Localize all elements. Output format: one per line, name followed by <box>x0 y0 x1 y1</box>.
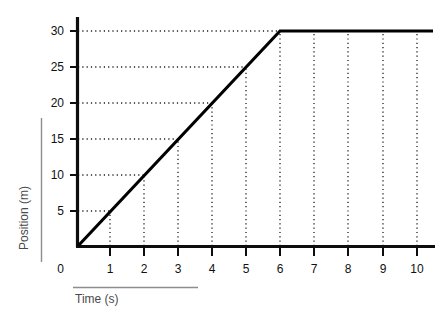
y-tick-label-10: 10 <box>51 168 65 182</box>
y-tick-label-5: 5 <box>57 204 64 218</box>
x-tick-label-1: 1 <box>107 262 114 276</box>
x-axis-title: Time (s) <box>75 292 119 306</box>
y-tick-label-15: 15 <box>51 132 65 146</box>
chart-canvas: 30 25 20 15 10 5 0 1 2 3 4 5 6 7 8 9 10 … <box>0 0 448 312</box>
x-tick-label-6: 6 <box>277 262 284 276</box>
y-tick-label-20: 20 <box>51 96 65 110</box>
horizontal-gridlines <box>78 31 280 211</box>
x-tick-label-7: 7 <box>311 262 318 276</box>
x-tick-label-10: 10 <box>410 262 424 276</box>
position-series-line <box>78 31 433 246</box>
x-tick-label-3: 3 <box>175 262 182 276</box>
x-tick-label-2: 2 <box>141 262 148 276</box>
x-tick-label-5: 5 <box>243 262 250 276</box>
position-time-chart: 30 25 20 15 10 5 0 1 2 3 4 5 6 7 8 9 10 … <box>0 0 448 312</box>
x-tick-label-8: 8 <box>345 262 352 276</box>
x-tick-label-9: 9 <box>380 262 387 276</box>
x-tick-label-4: 4 <box>209 262 216 276</box>
y-axis-tick-labels: 30 25 20 15 10 5 0 <box>51 24 65 276</box>
x-axis-ticks <box>110 247 417 256</box>
y-tick-label-25: 25 <box>51 60 65 74</box>
y-tick-label-30: 30 <box>51 24 65 38</box>
x-axis-tick-labels: 1 2 3 4 5 6 7 8 9 10 <box>107 262 424 276</box>
origin-label: 0 <box>57 262 64 276</box>
y-axis-title: Position (m) <box>17 186 31 250</box>
